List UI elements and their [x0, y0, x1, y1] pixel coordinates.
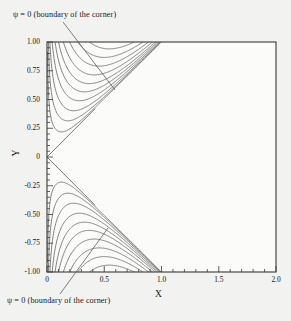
y-tick-label: 0.25 — [8, 123, 40, 132]
y-tick-label: 1.00 — [8, 37, 40, 46]
y-tick-label: -0.25 — [8, 181, 40, 190]
y-tick-label: 0 — [8, 152, 40, 161]
streamline-contour-figure — [0, 0, 291, 321]
y-tick-label: 0.75 — [8, 66, 40, 75]
x-axis-label: X — [155, 289, 162, 299]
x-tick-label: 2.0 — [263, 275, 289, 284]
annotation-psi-zero-top: ψ = 0 (boundary of the corner) — [13, 10, 116, 19]
x-tick-label: 0 — [34, 275, 60, 284]
x-tick-label: 1.5 — [206, 275, 232, 284]
plot-background — [47, 42, 276, 272]
y-tick-label: 0.50 — [8, 95, 40, 104]
annotation-psi-zero-bottom: ψ = 0 (boundary of the corner) — [7, 296, 110, 305]
y-tick-label: -0.75 — [8, 238, 40, 247]
x-tick-label: 0.5 — [91, 275, 117, 284]
x-tick-label: 1.0 — [149, 275, 175, 284]
y-tick-label: -0.50 — [8, 210, 40, 219]
